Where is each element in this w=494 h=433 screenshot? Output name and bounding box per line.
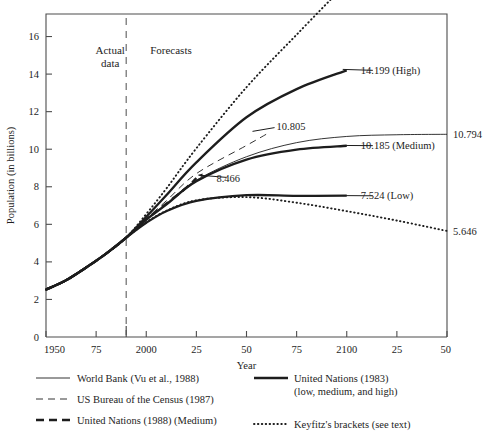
x-tick-label: 1950 [44,344,65,355]
x-tick-label: 25 [191,344,202,355]
legend-label: United Nations (1988) (Medium) [77,415,217,427]
data-annotation: 7.524 (Low) [361,190,414,202]
series-line [46,0,347,290]
x-axis-title: Year [237,360,257,371]
data-annotation: 10.185 (Medium) [361,140,436,152]
top-caption-fragment: ⎺ ⎺ ⎺ ⎺ ⎺ [96,0,396,6]
data-annotation: 10.794 [453,129,483,140]
legend-label: US Bureau of the Census (1987) [77,394,214,406]
data-annotation: 5.646 [453,226,477,237]
x-tick-label: 50 [441,344,452,355]
y-tick-label: 2 [34,294,39,305]
annotation-leader [253,128,275,132]
y-tick-label: 8 [34,181,39,192]
population-forecast-chart: ⎺ ⎺ ⎺ ⎺ ⎺ 024681012141619507520002550752… [0,0,494,433]
series-line [46,146,347,290]
legend-label: Keyfitz's brackets (see text) [294,419,411,431]
series-line [46,134,447,289]
data-annotation: 8.466 [216,173,240,184]
legend-label: World Bank (Vu et al., 1988) [77,373,199,385]
legend-right-column: United Nations (1983)(low, medium, and h… [254,373,411,431]
y-tick-label: 10 [29,144,40,155]
y-tick-label: 12 [29,106,40,117]
series-line [46,195,347,290]
data-annotation: 14.199 (High) [361,65,421,77]
y-tick-label: 0 [34,332,39,343]
x-tick-label: 75 [91,344,102,355]
legend-left-column: World Bank (Vu et al., 1988)US Bureau of… [36,373,217,427]
legend-label: United Nations (1983) [294,373,389,385]
series-line [46,197,447,290]
x-tick-label: 25 [392,344,403,355]
annotation-arrowhead [198,174,202,178]
data-annotation: 10.805 [277,121,306,132]
y-tick-label: 4 [34,256,40,267]
y-tick-label: 6 [34,219,39,230]
actual-data-label-line2: data [101,57,119,69]
forecasts-label: Forecasts [150,44,192,56]
series-line [46,178,196,290]
y-axis-title: Population (in billions) [5,126,17,224]
x-tick-label: 50 [241,344,252,355]
x-tick-label: 2000 [136,344,157,355]
y-tick-label: 16 [29,31,40,42]
x-tick-label: 75 [291,344,302,355]
legend-label-line2: (low, medium, and high) [294,386,398,398]
y-tick-label: 14 [29,69,40,80]
x-tick-label: 2100 [336,344,357,355]
actual-data-label-line1: Actual [96,44,125,56]
chart-canvas: 0246810121416195075200025507521002550Act… [0,0,494,433]
